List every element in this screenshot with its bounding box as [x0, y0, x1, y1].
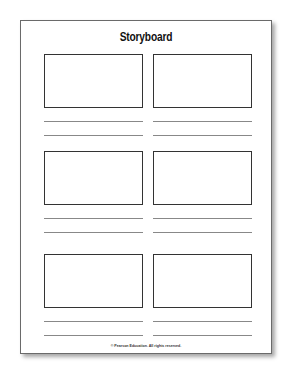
caption-line	[153, 335, 252, 336]
caption-line	[44, 218, 143, 219]
caption-line	[153, 135, 252, 136]
storyboard-page: Storyboard © Pearson Education. All righ…	[20, 20, 272, 354]
caption-line	[153, 218, 252, 219]
storyboard-frame-1	[44, 54, 143, 108]
caption-line	[153, 121, 252, 122]
storyboard-frame-4	[153, 151, 252, 205]
storyboard-frame-6	[153, 254, 252, 308]
caption-line	[44, 335, 143, 336]
caption-line	[153, 321, 252, 322]
page-title: Storyboard	[40, 30, 253, 44]
caption-line	[153, 232, 252, 233]
caption-line	[44, 321, 143, 322]
copyright-footer: © Pearson Education. All rights reserved…	[21, 344, 271, 348]
caption-line	[44, 135, 143, 136]
storyboard-frame-3	[44, 151, 143, 205]
storyboard-frame-5	[44, 254, 143, 308]
caption-line	[44, 232, 143, 233]
storyboard-frame-2	[153, 54, 252, 108]
caption-line	[44, 121, 143, 122]
